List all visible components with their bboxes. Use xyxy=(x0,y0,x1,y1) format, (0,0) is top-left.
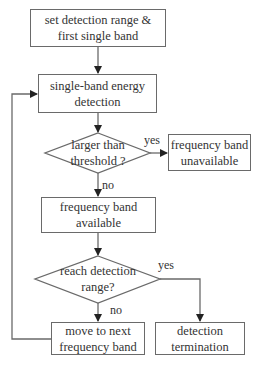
unavailable-box: frequency band unavailable xyxy=(168,134,251,171)
energy-detection-box: single-band energy detection xyxy=(38,74,157,113)
connector-lines xyxy=(0,0,259,365)
next-line1: move to next xyxy=(59,323,136,339)
unavailable-line1: frequency band xyxy=(171,137,248,153)
start-line1: set detection range & xyxy=(45,12,152,28)
threshold-no-label: no xyxy=(102,178,114,193)
next-band-box: move to next frequency band xyxy=(51,322,145,355)
threshold-line2: threshold ? xyxy=(55,153,141,169)
range-no-label: no xyxy=(110,303,122,318)
next-line2: frequency band xyxy=(59,339,136,355)
threshold-yes-label: yes xyxy=(144,133,160,148)
available-box: frequency band available xyxy=(41,197,156,233)
range-text: reach detection range? xyxy=(50,263,146,295)
range-line2: range? xyxy=(50,279,146,295)
energy-line1: single-band energy xyxy=(50,78,145,94)
termination-box: detection termination xyxy=(155,322,245,355)
unavailable-line2: unavailable xyxy=(171,153,248,169)
available-line1: frequency band xyxy=(60,199,137,215)
range-yes-label: yes xyxy=(158,258,174,273)
available-line2: available xyxy=(60,215,137,231)
termination-line2: termination xyxy=(171,339,229,355)
threshold-line1: larger than xyxy=(55,137,141,153)
start-line2: first single band xyxy=(45,28,152,44)
start-box: set detection range & first single band xyxy=(30,9,166,47)
range-line1: reach detection xyxy=(50,263,146,279)
threshold-text: larger than threshold ? xyxy=(55,137,141,169)
energy-line2: detection xyxy=(50,94,145,110)
termination-line1: detection xyxy=(171,323,229,339)
